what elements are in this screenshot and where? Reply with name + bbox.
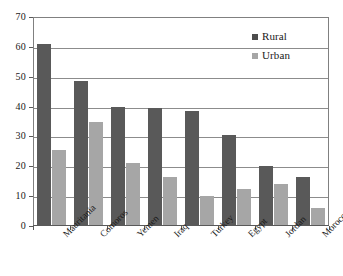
bar-group <box>296 17 325 226</box>
bar-urban <box>163 177 177 226</box>
legend: Rural Urban <box>252 27 290 65</box>
bar-urban <box>274 184 288 226</box>
x-axis-category-label: Mauritania <box>61 232 68 239</box>
x-axis-category-label: Turkey <box>209 232 216 239</box>
y-axis-tick <box>29 17 33 18</box>
bar-urban <box>237 189 251 226</box>
bar-group <box>111 17 140 226</box>
bar-rural <box>222 135 236 226</box>
y-axis-tick-label: 30 <box>16 131 26 141</box>
y-axis-tick <box>29 107 33 108</box>
x-axis-category-label: Comoros <box>98 232 105 239</box>
y-axis-tick-label: 10 <box>16 191 26 201</box>
bar-rural <box>148 108 162 226</box>
x-axis-category-label: Egypt <box>246 232 253 239</box>
y-axis-tick <box>29 196 33 197</box>
y-axis-tick-label: 20 <box>16 161 26 171</box>
y-axis-tick <box>29 166 33 167</box>
y-axis-tick <box>29 136 33 137</box>
bar-urban <box>126 163 140 226</box>
bar-urban <box>52 150 66 226</box>
bar-group <box>185 17 214 226</box>
bar-rural <box>185 111 199 226</box>
y-axis-tick-label: 60 <box>16 42 26 52</box>
legend-label-rural: Rural <box>262 31 287 42</box>
y-axis-tick-label: 50 <box>16 72 26 82</box>
legend-item-urban: Urban <box>252 46 290 65</box>
x-axis-category-label: Yemen <box>135 232 142 239</box>
bar-group <box>222 17 251 226</box>
legend-label-urban: Urban <box>262 50 290 61</box>
bar-urban <box>311 208 325 226</box>
legend-swatch-urban-icon <box>252 53 258 59</box>
bar-chart: 010203040506070 MauritaniaComorosYemenIr… <box>0 0 343 276</box>
y-axis-tick <box>29 77 33 78</box>
y-axis-tick-label: 40 <box>16 102 26 112</box>
y-axis-tick <box>29 47 33 48</box>
legend-swatch-rural-icon <box>252 34 258 40</box>
x-axis-category-label: Jordan <box>283 232 290 239</box>
bar-group <box>37 17 66 226</box>
x-axis-category-label: Morocco <box>320 232 327 239</box>
bar-rural <box>37 44 51 226</box>
bar-group <box>148 17 177 226</box>
x-axis-labels: MauritaniaComorosYemenIraqTurkeyEgyptJor… <box>0 226 343 276</box>
bar-urban <box>200 196 214 226</box>
bar-rural <box>74 81 88 226</box>
y-axis-tick-label: 70 <box>16 12 26 22</box>
bar-group <box>74 17 103 226</box>
x-axis-category-label: Iraq <box>172 232 179 239</box>
legend-item-rural: Rural <box>252 27 290 46</box>
